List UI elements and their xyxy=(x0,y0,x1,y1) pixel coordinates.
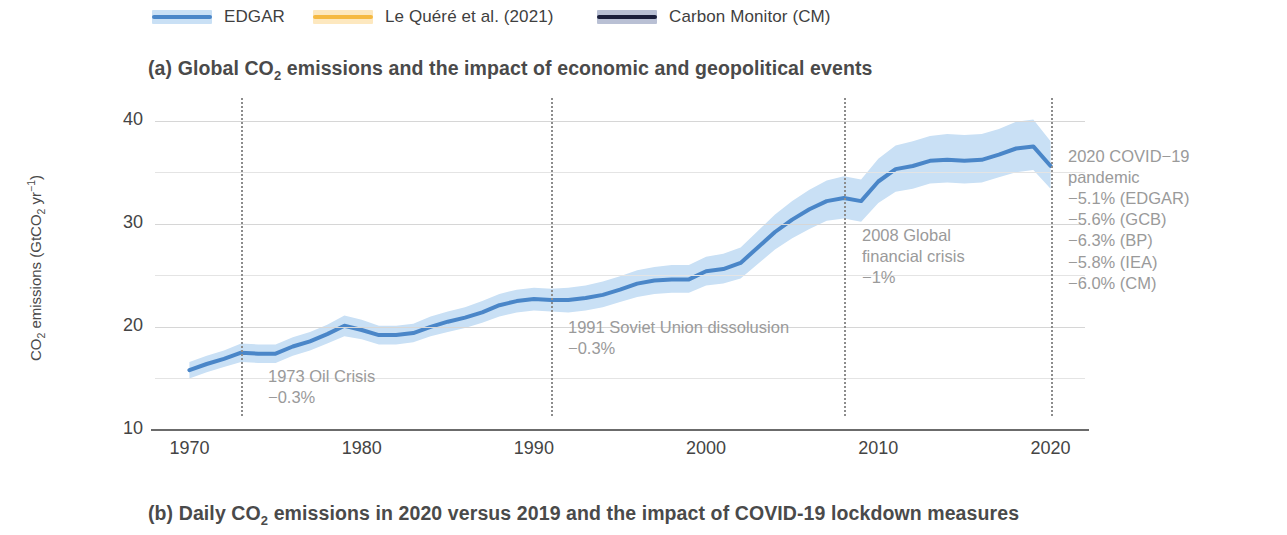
x-tick-label-2000: 2000 xyxy=(666,438,746,459)
y-axis-label-post: ) xyxy=(27,175,44,180)
y-axis-label: CO2 emissions (GtCO2 yr−1) xyxy=(25,148,47,388)
legend-label-0: EDGAR xyxy=(224,7,285,27)
annotation-1973-line-1: −0.3% xyxy=(268,387,375,408)
panel-b-title-pre: (b) Daily CO xyxy=(148,502,261,524)
x-axis-baseline xyxy=(151,429,1089,431)
legend-swatch-line xyxy=(597,15,657,19)
y-axis-label-mid: emissions (GtCO xyxy=(27,214,44,332)
annotation-2020-line-6: −6.0% (CM) xyxy=(1068,273,1190,294)
annotation-2020-line-4: −6.3% (BP) xyxy=(1068,230,1190,251)
annotation-2020-line-5: −5.8% (IEA) xyxy=(1068,252,1190,273)
y-tick-label-30: 30 xyxy=(103,212,143,233)
y-axis-label-sub2: 2 xyxy=(35,209,47,215)
figure-root: EDGARLe Quéré et al. (2021)Carbon Monito… xyxy=(0,0,1287,535)
x-tick-label-2010: 2010 xyxy=(838,438,918,459)
y-tick-label-10: 10 xyxy=(103,418,143,439)
x-tick-label-1980: 1980 xyxy=(322,438,402,459)
legend-item-1[interactable]: Le Quéré et al. (2021) xyxy=(313,0,554,34)
y-tick-label-20: 20 xyxy=(103,315,143,336)
gridline-minor-35 xyxy=(155,172,1085,173)
legend-swatch-line xyxy=(313,15,373,19)
gridline-40 xyxy=(155,121,1085,122)
legend-item-2[interactable]: Carbon Monitor (CM) xyxy=(597,0,831,34)
legend-item-0[interactable]: EDGAR xyxy=(152,0,285,34)
x-tick-label-1970: 1970 xyxy=(149,438,229,459)
x-tick-label-1990: 1990 xyxy=(494,438,574,459)
event-line-2008 xyxy=(844,98,846,416)
legend-label-2: Carbon Monitor (CM) xyxy=(669,7,831,27)
annotation-1991-line-0: 1991 Soviet Union dissolusion xyxy=(568,317,789,338)
annotation-1973-line-0: 1973 Oil Crisis xyxy=(268,366,375,387)
legend-label-1: Le Quéré et al. (2021) xyxy=(385,7,554,27)
event-line-1991 xyxy=(551,98,553,416)
annotation-2008-financial-crisis: 2008 Globalfinancial crisis−1% xyxy=(862,225,965,288)
panel-a-title-pre: (a) Global CO xyxy=(148,57,274,79)
annotation-1973-oil-crisis: 1973 Oil Crisis−0.3% xyxy=(268,366,375,408)
annotation-2020-covid: 2020 COVID−19pandemic−5.1% (EDGAR)−5.6% … xyxy=(1068,146,1190,294)
y-axis-label-sub1: 2 xyxy=(35,333,47,339)
x-tick-label-2020: 2020 xyxy=(1011,438,1091,459)
annotation-2020-line-1: pandemic xyxy=(1068,167,1190,188)
panel-a-title: (a) Global CO2 emissions and the impact … xyxy=(148,57,872,83)
annotation-2008-line-0: 2008 Global xyxy=(862,225,965,246)
legend-swatch-icon-2 xyxy=(597,8,657,26)
y-axis-label-sup: −1 xyxy=(25,180,37,192)
y-axis-label-unit: yr xyxy=(27,192,44,209)
annotation-2008-line-1: financial crisis xyxy=(862,246,965,267)
annotation-1991-line-1: −0.3% xyxy=(568,338,789,359)
event-line-1973 xyxy=(241,98,243,416)
y-tick-label-40: 40 xyxy=(103,109,143,130)
y-axis-label-pre: CO xyxy=(27,339,44,362)
annotation-2020-line-3: −5.6% (GCB) xyxy=(1068,209,1190,230)
legend-swatch-icon-1 xyxy=(313,8,373,26)
panel-b-title-post: emissions in 2020 versus 2019 and the im… xyxy=(268,502,1019,524)
annotation-2020-line-0: 2020 COVID−19 xyxy=(1068,146,1190,167)
annotation-2020-line-2: −5.1% (EDGAR) xyxy=(1068,188,1190,209)
event-line-2020 xyxy=(1051,98,1053,416)
legend-swatch-icon-0 xyxy=(152,8,212,26)
annotation-1991-soviet-union: 1991 Soviet Union dissolusion−0.3% xyxy=(568,317,789,359)
legend-swatch-line xyxy=(152,15,212,19)
panel-a-title-post: emissions and the impact of economic and… xyxy=(281,57,872,79)
annotation-2008-line-2: −1% xyxy=(862,267,965,288)
panel-b-title: (b) Daily CO2 emissions in 2020 versus 2… xyxy=(148,502,1019,528)
chart-legend: EDGARLe Quéré et al. (2021)Carbon Monito… xyxy=(0,0,1287,34)
